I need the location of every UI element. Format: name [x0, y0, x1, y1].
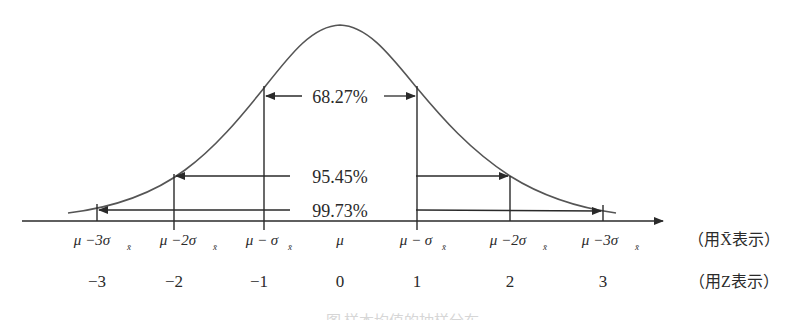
label-95-percent: 95.45% — [312, 167, 368, 187]
z-tick-1: 1 — [413, 272, 422, 291]
xbar-tick-plus2: μ −2σ — [489, 232, 527, 248]
svg-text:x̄: x̄ — [634, 242, 640, 252]
svg-text:x̄: x̄ — [212, 242, 218, 252]
label-68-percent: 68.27% — [312, 87, 368, 107]
xbar-tick-labels: μ −3σ μ −2σ μ − σ μ μ − σ μ −2σ μ −3σ — [73, 232, 619, 248]
xbar-tick-minus2: μ −2σ — [159, 232, 197, 248]
xbar-subscripts: x̄ x̄ x̄ x̄ x̄ x̄ — [126, 242, 640, 252]
z-tick-minus3: −3 — [88, 272, 106, 291]
xbar-tick-0: μ — [335, 232, 344, 248]
xbar-tick-plus1: μ − σ — [399, 232, 433, 248]
svg-text:x̄: x̄ — [126, 242, 132, 252]
z-tick-minus1: −1 — [250, 272, 268, 291]
xbar-tick-minus3: μ −3σ — [73, 232, 111, 248]
z-tick-3: 3 — [599, 272, 608, 291]
z-tick-labels: −3 −2 −1 0 1 2 3 — [88, 272, 607, 291]
z-axis-note: （用Z表示） — [689, 273, 779, 290]
z-tick-2: 2 — [506, 272, 515, 291]
svg-text:x̄: x̄ — [542, 242, 548, 252]
z-tick-0: 0 — [336, 272, 345, 291]
figure-caption: 图 样本均值的抽样分布 — [0, 306, 805, 320]
xbar-tick-plus3: μ −3σ — [581, 232, 619, 248]
z-tick-minus2: −2 — [165, 272, 183, 291]
normal-distribution-figure: 68.27% 95.45% 99.73% μ −3σ μ −2σ μ − σ μ… — [0, 0, 805, 320]
svg-text:x̄: x̄ — [441, 242, 447, 252]
label-99-percent: 99.73% — [312, 201, 368, 221]
svg-text:x̄: x̄ — [287, 242, 293, 252]
xbar-axis-note: （用X̄表示） — [688, 231, 780, 248]
xbar-tick-minus1: μ − σ — [245, 232, 279, 248]
